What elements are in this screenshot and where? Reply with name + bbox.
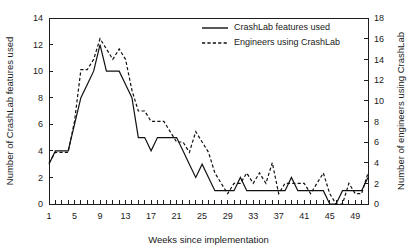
x-axis-tick-label-5: 21 (172, 211, 182, 221)
chart-figure: 0246810121402468101214161815913172125293… (0, 0, 413, 249)
x-axis-tick-label-9: 37 (274, 211, 284, 221)
y-axis-tick-label-right-4: 8 (374, 117, 379, 127)
chart-canvas: 0246810121402468101214161815913172125293… (0, 0, 413, 249)
x-axis-tick-label-1: 5 (72, 211, 77, 221)
y-axis-tick-label-left-5: 10 (33, 66, 43, 76)
x-axis-tick-label-0: 1 (46, 211, 51, 221)
y-axis-tick-label-right-2: 4 (374, 158, 379, 168)
y-axis-tick-label-right-5: 10 (374, 96, 384, 106)
series-line-engineers (49, 39, 368, 204)
y-axis-tick-label-left-2: 4 (38, 146, 43, 156)
y-axis-tick-label-right-9: 18 (374, 13, 384, 23)
y-axis-tick-label-right-7: 14 (374, 55, 384, 65)
y-axis-tick-label-left-7: 14 (33, 13, 43, 23)
x-axis-tick-label-3: 13 (121, 211, 131, 221)
y-axis-tick-label-right-6: 12 (374, 75, 384, 85)
x-axis-tick-label-6: 25 (197, 211, 207, 221)
x-axis-tick-label-12: 49 (350, 211, 360, 221)
y-axis-tick-label-right-0: 0 (374, 199, 379, 209)
x-axis-tick-label-11: 45 (325, 211, 335, 221)
y-axis-tick-label-left-4: 8 (38, 93, 43, 103)
x-axis-tick-label-4: 17 (146, 211, 156, 221)
legend-label-0: CrashLab features used (234, 22, 330, 32)
legend-label-1: Engineers using CrashLab (234, 37, 340, 47)
y-axis-tick-label-right-1: 2 (374, 179, 379, 189)
y-axis-tick-label-left-6: 12 (33, 40, 43, 50)
series-line-features (49, 45, 368, 204)
x-axis-title: Weeks since implementation (148, 234, 269, 245)
y-axis-tick-label-right-8: 16 (374, 34, 384, 44)
x-axis-tick-label-7: 29 (223, 211, 233, 221)
x-axis-tick-label-8: 33 (248, 211, 258, 221)
x-axis-tick-label-2: 9 (98, 211, 103, 221)
y-axis-tick-label-left-3: 6 (38, 119, 43, 129)
y-axis-title-right: Number of engineers using CrashLab (395, 32, 406, 190)
y-axis-title-left: Number of CrashLab features used (4, 37, 15, 185)
y-axis-tick-label-left-1: 2 (38, 173, 43, 183)
x-axis-tick-label-10: 41 (299, 211, 309, 221)
y-axis-tick-label-left-0: 0 (38, 199, 43, 209)
y-axis-tick-label-right-3: 6 (374, 137, 379, 147)
